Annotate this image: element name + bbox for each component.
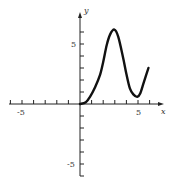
y-axis-label: y — [83, 6, 89, 15]
function-graph: x y -5 5 5 -5 — [0, 0, 174, 186]
y-tick-label-neg5: -5 — [67, 160, 75, 169]
y-axis-arrow-icon — [78, 12, 82, 18]
x-axis-label: x — [161, 107, 166, 116]
y-tick-label-pos5: 5 — [71, 40, 76, 49]
x-tick-label-pos5: 5 — [136, 108, 141, 117]
x-tick-label-neg5: -5 — [17, 108, 25, 117]
x-axis-arrow-icon — [158, 102, 164, 106]
function-curve — [80, 30, 148, 104]
